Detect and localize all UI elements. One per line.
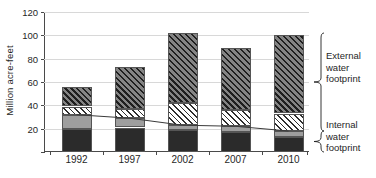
bar-1997[interactable] — [115, 12, 145, 152]
bar-segment-1997-s1 — [115, 118, 145, 127]
bar-segment-2002-s2 — [168, 103, 198, 125]
bar-segment-2010-s1 — [274, 131, 304, 137]
x-axis-tick-labels: 19921997200220072010 — [44, 154, 309, 170]
y-tick-label: 20 — [16, 123, 38, 134]
y-tick-mark — [41, 129, 44, 130]
y-axis-title: Million acre-feet — [4, 45, 15, 115]
bar-segment-1992-s1 — [62, 115, 92, 129]
bar-segment-2010-s0 — [274, 137, 304, 152]
y-tick-mark — [41, 152, 44, 153]
bar-segment-2007-s3 — [221, 48, 251, 110]
bar-2007[interactable] — [221, 12, 251, 152]
y-tick-label: 40 — [16, 100, 38, 111]
y-tick-mark — [41, 12, 44, 13]
x-tick-label-1992: 1992 — [65, 154, 87, 165]
bar-2002[interactable] — [168, 12, 198, 152]
y-tick-mark — [41, 59, 44, 60]
legend-external-line2: water — [326, 62, 376, 74]
y-tick-label: 60 — [16, 77, 38, 88]
x-tick-label-1997: 1997 — [118, 154, 140, 165]
legend-internal-line3: footprint — [326, 142, 376, 154]
brace-external — [314, 33, 324, 131]
bar-segment-1997-s2 — [115, 109, 145, 118]
y-tick-mark — [41, 35, 44, 36]
legend-internal-line1: Internal — [326, 119, 376, 131]
bar-segment-1997-s3 — [115, 67, 145, 109]
bar-segment-2007-s0 — [221, 132, 251, 152]
x-tick-label-2007: 2007 — [224, 154, 246, 165]
y-tick-label: 80 — [16, 53, 38, 64]
legend-external-line1: External — [326, 50, 376, 62]
y-tick-label: 100 — [16, 30, 38, 41]
x-tick-label-2002: 2002 — [171, 154, 193, 165]
bar-segment-2002-s0 — [168, 130, 198, 152]
y-tick-mark — [41, 82, 44, 83]
y-tick-mark — [41, 105, 44, 106]
x-tick-label-2010: 2010 — [277, 154, 299, 165]
bar-1992[interactable] — [62, 12, 92, 152]
chart-legend: External water footprint Internal water … — [312, 0, 376, 178]
legend-external-line3: footprint — [326, 73, 376, 85]
stacked-bar-chart: Million acre-feet 20406080100120 1992199… — [0, 0, 376, 178]
brace-internal — [314, 131, 324, 152]
legend-external-water-footprint: External water footprint — [326, 50, 376, 85]
bar-segment-2002-s1 — [168, 125, 198, 130]
bar-segment-2010-s3 — [274, 35, 304, 113]
bar-segment-1997-s0 — [115, 128, 145, 153]
bar-segment-2010-s2 — [274, 114, 304, 132]
legend-internal-water-footprint: Internal water footprint — [326, 119, 376, 154]
y-axis-tick-labels: 20406080100120 — [14, 0, 38, 178]
bar-2010[interactable] — [274, 12, 304, 152]
bar-segment-1992-s3 — [62, 87, 92, 107]
y-tick-label: 120 — [16, 7, 38, 18]
legend-internal-line2: water — [326, 131, 376, 143]
bar-segment-2007-s2 — [221, 110, 251, 126]
bar-segment-1992-s0 — [62, 129, 92, 152]
bar-segment-1992-s2 — [62, 107, 92, 115]
bar-segment-2002-s3 — [168, 33, 198, 103]
bar-segment-2007-s1 — [221, 126, 251, 132]
plot-area — [44, 12, 309, 152]
